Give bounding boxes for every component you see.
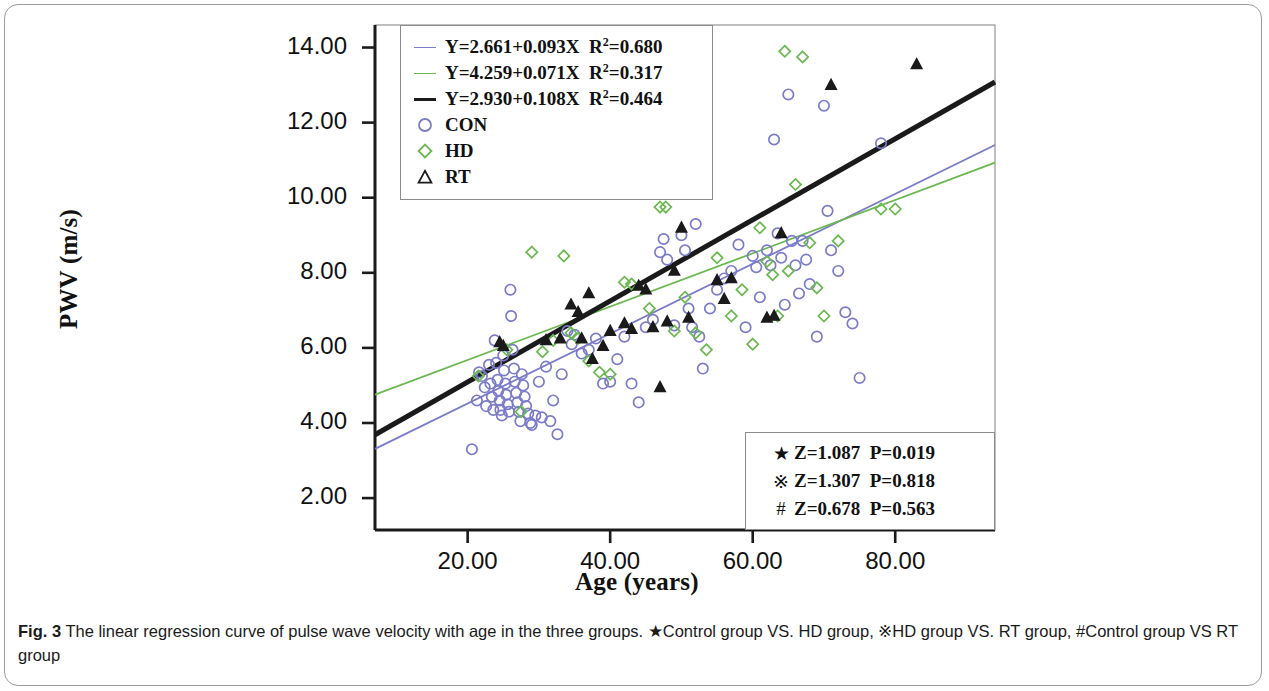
legend-row: RT (411, 164, 702, 190)
legend-row: Y=4.259+0.071X R2=0.317 (411, 60, 702, 86)
stats-symbol: ※ (768, 470, 794, 493)
triangle-icon (411, 168, 439, 186)
legend-box: Y=2.661+0.093X R2=0.680Y=4.259+0.071X R2… (400, 25, 713, 200)
legend-row: CON (411, 112, 702, 138)
y-tick-label: 4.00 (252, 407, 347, 435)
y-tick-label: 2.00 (252, 482, 347, 510)
x-tick-label: 40.00 (555, 547, 665, 575)
line-icon (411, 47, 439, 48)
figure-caption-text: The linear regression curve of pulse wav… (18, 622, 1238, 664)
legend-line-swatch (414, 47, 436, 48)
x-tick-label: 80.00 (840, 547, 950, 575)
legend-label: Y=2.661+0.093X R2=0.680 (439, 35, 662, 58)
figure-caption: Fig. 3 The linear regression curve of pu… (18, 620, 1244, 668)
stats-symbol: # (768, 498, 794, 520)
y-axis-title: PWV (m/s) (55, 154, 83, 384)
y-tick-label: 14.00 (252, 32, 347, 60)
legend-label: CON (439, 114, 487, 136)
legend-label: RT (439, 166, 471, 188)
legend-label: Y=2.930+0.108X R2=0.464 (439, 87, 662, 110)
diamond-icon (411, 142, 439, 160)
stats-row: ※Z=1.307 P=0.818 (746, 467, 994, 495)
stats-values: Z=0.678 P=0.563 (794, 498, 935, 520)
stats-values: Z=1.307 P=0.818 (794, 470, 935, 492)
legend-line-swatch (414, 73, 436, 74)
circle-icon (411, 116, 439, 134)
legend-row: Y=2.661+0.093X R2=0.680 (411, 34, 702, 60)
thick-line-icon (411, 98, 439, 101)
stats-values: Z=1.087 P=0.019 (794, 442, 935, 464)
x-tick-label: 60.00 (698, 547, 808, 575)
y-tick-label: 12.00 (252, 107, 347, 135)
stats-row: ★Z=1.087 P=0.019 (746, 439, 994, 467)
y-tick-label: 6.00 (252, 332, 347, 360)
y-tick-label: 10.00 (252, 182, 347, 210)
legend-row: Y=2.930+0.108X R2=0.464 (411, 86, 702, 112)
figure-label: Fig. 3 (18, 622, 61, 640)
legend-line-swatch (414, 98, 436, 101)
statistics-box: ★Z=1.087 P=0.019※Z=1.307 P=0.818#Z=0.678… (745, 432, 995, 530)
figure-region: PWV (m/s) Age (years) 2.004.006.008.0010… (0, 0, 1269, 614)
x-tick-label: 20.00 (413, 547, 523, 575)
stats-row: #Z=0.678 P=0.563 (746, 495, 994, 523)
stats-symbol: ★ (768, 442, 794, 465)
y-tick-label: 8.00 (252, 257, 347, 285)
legend-label: HD (439, 140, 474, 162)
line-icon (411, 73, 439, 74)
legend-row: HD (411, 138, 702, 164)
legend-label: Y=4.259+0.071X R2=0.317 (439, 61, 662, 84)
figure-page: PWV (m/s) Age (years) 2.004.006.008.0010… (0, 0, 1269, 691)
